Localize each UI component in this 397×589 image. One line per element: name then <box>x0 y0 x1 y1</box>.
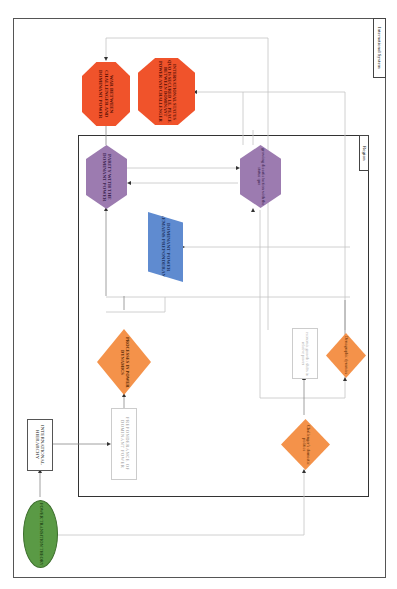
growing-dissatisfaction-node-text: growing dissatisfaction with the status … <box>256 145 266 208</box>
preponderance-node: PREPONDERANCE OF DOMINANT POWER <box>111 408 137 480</box>
power-transition-theory-node-text: POWER TRANSITION THEORY <box>38 503 43 566</box>
demographic-dynamics-node-text: Demographic dynamics <box>344 336 348 374</box>
status-quo-peace-node: INTERNATIONAL STATUS QUO IS SECURED I.E.… <box>138 58 195 125</box>
preponderance-node-text: PREPONDERANCE OF DOMINANT POWER <box>119 409 129 479</box>
international-hierarchy-node: INTERNATIONAL HIERARCHY <box>27 419 53 471</box>
war-node-text: WAR BETWEEN CHALLENGER AND DOMINANT POWE… <box>98 62 115 126</box>
status-quo-peace-node-text: INTERNATIONAL STATUS QUO IS SECURED I.E.… <box>157 58 177 125</box>
dominant-power-remains-node: DOMINANT POWER REMAINS PREPONDERANT <box>148 212 183 282</box>
connector-lines <box>0 0 397 589</box>
international-hierarchy-node-text: INTERNATIONAL HIERARCHY <box>35 420 46 470</box>
dominant-power-remains-node-text: DOMINANT POWER REMAINS PREPONDERANT <box>160 212 171 282</box>
economic-growth-node: economic growth / shifts in relative pow… <box>292 328 318 379</box>
processes-power-dynamics-node-text: PROCESSES IN POWER DYNAMICS <box>119 329 129 395</box>
power-transition-theory-node: POWER TRANSITION THEORY <box>23 500 58 568</box>
challengers-domestic-politics-node-text: Challenger's domestic politics <box>301 419 311 470</box>
war-node: WAR BETWEEN CHALLENGER AND DOMINANT POWE… <box>82 62 130 126</box>
economic-growth-node-text: economic growth / shifts in relative pow… <box>301 329 310 378</box>
parity-node-text: PARITY WITH THE DOMINANT POWER <box>101 145 112 209</box>
